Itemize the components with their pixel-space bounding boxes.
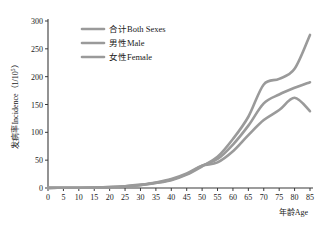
x-axis-tick-label: 20 [106,193,114,202]
y-axis-tick-label: 150 [31,101,43,110]
y-axis-tick-label: 200 [31,73,43,82]
x-axis-tick-label: 15 [90,193,98,202]
incidence-by-age-line-chart: 050100150200250300 051015202530354045505… [0,0,321,227]
x-axis-tick-label: 55 [214,193,222,202]
x-axis-tick-label: 45 [183,193,191,202]
x-axis-tick-label: 80 [291,193,299,202]
chart-figure: 050100150200250300 051015202530354045505… [0,0,321,227]
x-axis-title: 年龄Age [279,207,309,217]
x-axis-tick-label: 60 [229,193,237,202]
y-axis-tick-label: 100 [31,128,43,137]
x-axis-title-text: 年龄Age [279,207,309,217]
x-axis-tick-label: 5 [61,193,65,202]
y-axis-tick-label: 300 [31,17,43,26]
x-axis-tick-label: 10 [75,193,83,202]
x-axis-tick-label: 85 [306,193,314,202]
y-axis-tick-label: 50 [35,156,43,165]
x-axis-tick-label: 25 [121,193,129,202]
legend-label: 男性Male [109,38,145,48]
x-axis-tick-label: 30 [136,193,144,202]
y-axis-title-text: 发病率Incidence（1/105） [10,60,20,148]
legend-label: 女性Female [109,52,152,62]
x-axis-tick-label: 40 [167,193,175,202]
x-axis-tick-label: 70 [260,193,268,202]
x-axis-tick-label: 0 [46,193,50,202]
x-axis-tick-label: 50 [198,193,206,202]
y-axis-tick-label: 250 [31,45,43,54]
x-axis-tick-label: 65 [244,193,252,202]
x-axis-tick-label: 75 [275,193,283,202]
legend-label: 合计Both Sexes [109,24,166,34]
y-axis-title: 发病率Incidence（1/105） [10,60,20,148]
y-axis-tick-label: 0 [39,184,43,193]
x-axis-tick-label: 35 [152,193,160,202]
